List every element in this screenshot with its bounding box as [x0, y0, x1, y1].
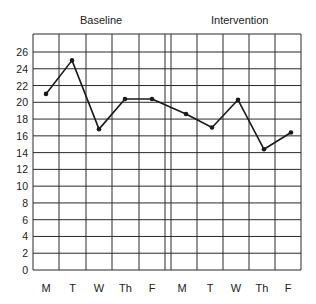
data-point-marker: [150, 97, 155, 102]
x-tick-label: T: [69, 282, 76, 294]
data-point-marker: [184, 112, 189, 117]
data-point-marker: [210, 125, 215, 130]
data-point-marker: [70, 58, 75, 63]
y-tick-label: 10: [16, 180, 28, 192]
y-tick-label: 0: [22, 264, 28, 276]
data-point-marker: [44, 92, 49, 97]
y-tick-label: 8: [22, 197, 28, 209]
x-axis-ticks: MTWThFMTWThF: [41, 282, 291, 294]
chart-grid: [33, 34, 301, 270]
x-tick-label: W: [231, 282, 242, 294]
y-tick-label: 18: [16, 113, 28, 125]
x-tick-label: T: [207, 282, 214, 294]
x-tick-label: Th: [256, 282, 269, 294]
y-tick-label: 26: [16, 46, 28, 58]
y-axis-ticks: 02468101214161820222426: [16, 46, 28, 276]
y-tick-label: 24: [16, 63, 28, 75]
y-tick-label: 12: [16, 163, 28, 175]
x-tick-label: W: [94, 282, 105, 294]
data-point-marker: [123, 97, 128, 102]
x-tick-label: F: [149, 282, 156, 294]
x-tick-label: F: [285, 282, 292, 294]
x-tick-label: M: [41, 282, 50, 294]
data-point-marker: [236, 97, 241, 102]
data-point-marker: [97, 127, 102, 132]
y-tick-label: 6: [22, 214, 28, 226]
y-tick-label: 20: [16, 96, 28, 108]
y-tick-label: 22: [16, 80, 28, 92]
y-tick-label: 2: [22, 247, 28, 259]
data-point-marker: [262, 147, 267, 152]
x-tick-label: Th: [119, 282, 132, 294]
y-tick-label: 16: [16, 130, 28, 142]
y-tick-label: 4: [22, 230, 28, 242]
y-tick-label: 14: [16, 147, 28, 159]
data-point-marker: [289, 130, 294, 135]
x-tick-label: M: [177, 282, 186, 294]
line-chart: 02468101214161820222426 MTWThFMTWThF: [0, 0, 316, 304]
data-series: [44, 58, 294, 151]
